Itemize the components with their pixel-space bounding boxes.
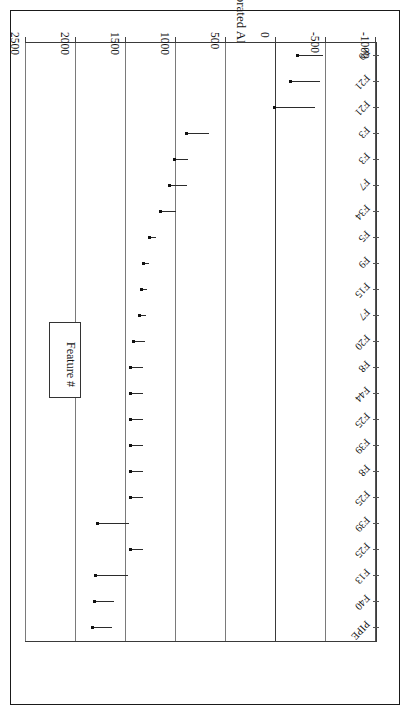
category-tick [373, 367, 379, 368]
range-bar [131, 497, 143, 498]
category-tick [373, 575, 379, 576]
category-label: F5 [356, 229, 372, 245]
data-point-marker [130, 419, 133, 422]
category-label: F25 [353, 489, 372, 508]
range-bar [134, 341, 145, 342]
data-point-marker [130, 393, 133, 396]
category-label: F21 [353, 73, 372, 92]
category-label: F7 [356, 307, 372, 323]
range-bar [96, 575, 128, 576]
value-tick [325, 37, 326, 42]
value-tick-label: -1000 [359, 32, 371, 59]
category-label: F25 [353, 541, 372, 560]
range-bar [291, 81, 320, 82]
value-tick-label: -500 [309, 32, 321, 53]
range-bar [275, 107, 315, 108]
legend-box: Feature # [49, 322, 81, 398]
value-tick-label: 1000 [159, 32, 171, 55]
category-label: F39 [353, 515, 372, 534]
category-label: F3 [356, 151, 372, 167]
category-label: F8 [356, 463, 372, 479]
range-bar [131, 393, 143, 394]
category-tick [373, 133, 379, 134]
category-tick [373, 211, 379, 212]
range-bar [131, 549, 143, 550]
data-point-marker [160, 211, 163, 214]
gridline-500 [225, 43, 226, 641]
data-point-marker [133, 341, 136, 344]
value-tick-label: 2500 [9, 32, 21, 55]
category-label: F8 [356, 359, 372, 375]
value-tick-label: 2000 [59, 32, 71, 55]
data-point-marker [130, 367, 133, 370]
data-point-marker [149, 237, 152, 240]
category-label: F3 [356, 125, 372, 141]
value-tick-label: 1500 [109, 32, 121, 55]
data-point-marker [97, 523, 100, 526]
data-point-marker [141, 289, 144, 292]
figure-frame: Calibrated AD/BC Ranges F9F21F21F3F3F7F3… [10, 10, 400, 705]
value-tick [175, 37, 176, 42]
value-tick [375, 37, 376, 42]
category-tick [373, 263, 379, 264]
chart-page: Calibrated AD/BC Ranges F9F21F21F3F3F7F3… [0, 0, 408, 715]
category-label: F34 [353, 203, 372, 222]
category-tick [373, 289, 379, 290]
range-bar [131, 419, 143, 420]
category-tick [373, 159, 379, 160]
rotated-figure-container: Calibrated AD/BC Ranges F9F21F21F3F3F7F3… [0, 0, 408, 715]
gridline-1000 [175, 43, 176, 641]
range-bar [187, 133, 209, 134]
category-label: F39 [353, 437, 372, 456]
range-bar [175, 159, 188, 160]
value-tick [275, 37, 276, 42]
category-label: F15 [353, 281, 372, 300]
category-tick [373, 237, 379, 238]
category-label: F40 [353, 593, 372, 612]
category-tick [373, 471, 379, 472]
category-tick [373, 315, 379, 316]
category-label: F25 [353, 411, 372, 430]
legend-title: Feature # [63, 333, 78, 397]
range-bar [131, 367, 143, 368]
category-tick [373, 523, 379, 524]
category-tick [373, 55, 379, 56]
category-tick [373, 445, 379, 446]
data-point-marker [139, 315, 142, 318]
category-tick [373, 107, 379, 108]
category-label: F21 [353, 99, 372, 118]
data-point-marker [174, 159, 177, 162]
category-tick [373, 627, 379, 628]
range-bar [95, 601, 114, 602]
range-bar [131, 471, 143, 472]
category-tick [373, 341, 379, 342]
data-point-marker [274, 107, 277, 110]
category-tick [373, 419, 379, 420]
value-tick [25, 37, 26, 42]
value-tick [125, 37, 126, 42]
data-point-marker [130, 471, 133, 474]
data-point-marker [297, 55, 300, 58]
category-tick [373, 601, 379, 602]
gridline-1500 [125, 43, 126, 641]
range-bar [98, 523, 129, 524]
value-tick [75, 37, 76, 42]
range-bar [298, 55, 323, 56]
category-tick [373, 497, 379, 498]
category-label: F20 [353, 333, 372, 352]
category-label: PIPE [349, 619, 372, 642]
data-point-marker [95, 575, 98, 578]
value-tick [225, 37, 226, 42]
data-point-marker [169, 185, 172, 188]
gridline--500 [325, 43, 326, 641]
data-point-marker [92, 627, 95, 630]
data-point-marker [130, 549, 133, 552]
category-label: F44 [353, 385, 372, 404]
value-tick-label: 500 [209, 32, 221, 49]
range-bar [131, 445, 143, 446]
category-tick [373, 393, 379, 394]
category-tick [373, 81, 379, 82]
data-point-marker [130, 445, 133, 448]
data-point-marker [143, 263, 146, 266]
category-tick [373, 185, 379, 186]
